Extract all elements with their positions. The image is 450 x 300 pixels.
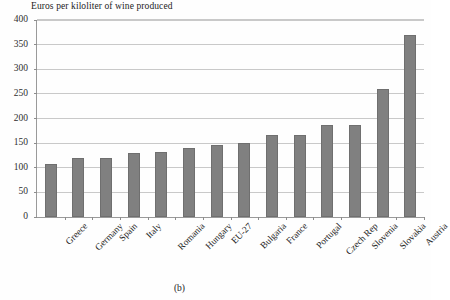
- y-tick-label: 150: [0, 137, 28, 147]
- gridline: [37, 20, 424, 21]
- gridline: [37, 93, 424, 94]
- gridline: [37, 192, 424, 193]
- y-tick-mark: [34, 69, 37, 70]
- y-tick-mark: [34, 44, 37, 45]
- x-tick-mark: [369, 217, 370, 220]
- y-tick-label: 300: [0, 63, 28, 73]
- bar: [155, 152, 167, 217]
- x-tick-label: Slovakia: [397, 221, 427, 251]
- y-tick-label: 350: [0, 39, 28, 49]
- x-tick-mark: [313, 217, 314, 220]
- gridline: [37, 44, 424, 45]
- gridline: [37, 118, 424, 119]
- gridline: [37, 167, 424, 168]
- bar: [128, 153, 140, 217]
- gridline: [37, 69, 424, 70]
- x-tick-mark: [175, 217, 176, 220]
- x-tick-label: Italy: [144, 221, 163, 240]
- x-tick-label: Portugal: [314, 221, 343, 250]
- x-tick-label: EU-27: [229, 221, 254, 246]
- bar: [349, 125, 361, 217]
- figure-caption: (b): [0, 283, 431, 293]
- bar: [238, 143, 250, 217]
- x-tick-mark: [148, 217, 149, 220]
- y-tick-label: 0: [0, 211, 28, 221]
- bar: [45, 164, 57, 217]
- plot-area: [36, 20, 424, 218]
- x-tick-mark: [231, 217, 232, 220]
- x-tick-mark: [203, 217, 204, 220]
- x-tick-label: Romania: [176, 221, 207, 252]
- gridline: [37, 143, 424, 144]
- y-tick-label: 200: [0, 113, 28, 123]
- x-tick-mark: [65, 217, 66, 220]
- chart-title: Euros per kiloliter of wine produced: [31, 1, 173, 11]
- x-tick-mark: [286, 217, 287, 220]
- x-tick-label: Bulgaria: [259, 221, 289, 251]
- y-tick-mark: [34, 192, 37, 193]
- bar: [404, 35, 416, 217]
- bar: [211, 145, 223, 217]
- y-tick-mark: [34, 93, 37, 94]
- bar: [266, 135, 278, 217]
- bar: [294, 135, 306, 217]
- y-tick-label: 100: [0, 162, 28, 172]
- x-tick-mark: [120, 217, 121, 220]
- y-tick-label: 400: [0, 14, 28, 24]
- bar: [321, 125, 333, 217]
- bar: [72, 158, 84, 217]
- y-tick-mark: [34, 167, 37, 168]
- x-tick-mark: [92, 217, 93, 220]
- x-tick-label: France: [284, 221, 309, 246]
- x-tick-mark: [258, 217, 259, 220]
- x-tick-label: Hungary: [204, 221, 234, 251]
- bar: [100, 158, 112, 217]
- y-tick-label: 250: [0, 88, 28, 98]
- y-tick-mark: [34, 118, 37, 119]
- y-tick-label: 50: [0, 186, 28, 196]
- x-tick-label: Austria: [423, 221, 449, 247]
- x-tick-mark: [341, 217, 342, 220]
- y-tick-mark: [34, 143, 37, 144]
- y-tick-mark: [34, 20, 37, 21]
- x-tick-label: Greece: [64, 221, 90, 247]
- figure-caption-text: (b): [174, 283, 185, 293]
- x-tick-mark: [396, 217, 397, 220]
- bar: [183, 148, 195, 217]
- y-tick-mark: [34, 217, 37, 218]
- x-tick-mark: [424, 217, 425, 220]
- bar: [377, 89, 389, 217]
